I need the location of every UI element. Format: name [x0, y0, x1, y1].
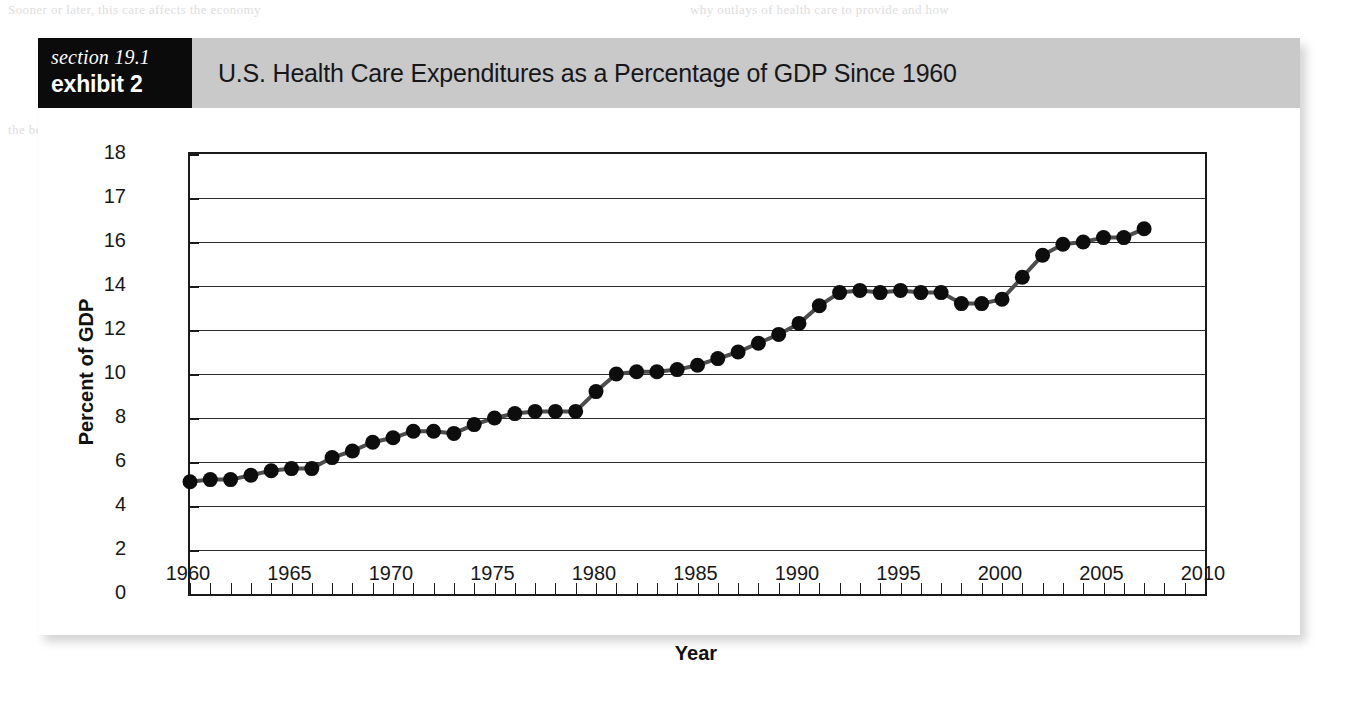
data-point — [446, 426, 461, 441]
data-point — [792, 316, 807, 331]
section-label: section 19.1 — [51, 45, 192, 70]
exhibit-label-block: section 19.1 exhibit 2 — [38, 38, 192, 108]
y-tick-label: 6 — [66, 449, 126, 472]
x-tick-label: 1990 — [775, 562, 820, 585]
data-point — [1035, 248, 1050, 263]
data-point — [649, 364, 664, 379]
data-point — [365, 435, 380, 450]
y-tick-label: 17 — [66, 185, 126, 208]
x-tick-label: 1960 — [166, 562, 211, 585]
x-tick-label: 1970 — [369, 562, 414, 585]
data-point — [589, 384, 604, 399]
data-point — [1096, 230, 1111, 245]
y-tick-label: 14 — [66, 273, 126, 296]
x-tick-label: 1985 — [673, 562, 718, 585]
data-point — [852, 283, 867, 298]
series-markers — [183, 221, 1152, 489]
data-point — [264, 463, 279, 478]
data-point — [203, 472, 218, 487]
data-point — [487, 411, 502, 426]
series-line — [190, 229, 1144, 482]
x-tick-label: 1965 — [267, 562, 312, 585]
data-point — [467, 417, 482, 432]
data-point — [934, 285, 949, 300]
data-point — [304, 461, 319, 476]
y-tick-label: 2 — [66, 537, 126, 560]
y-tick-label: 4 — [66, 493, 126, 516]
data-point — [731, 345, 746, 360]
data-point — [629, 364, 644, 379]
data-point — [751, 336, 766, 351]
x-tick-label: 2005 — [1079, 562, 1124, 585]
data-point — [284, 461, 299, 476]
data-point — [528, 404, 543, 419]
y-tick-label: 0 — [66, 581, 126, 604]
y-tick-label: 16 — [66, 229, 126, 252]
x-tick-label: 1975 — [470, 562, 515, 585]
data-point — [507, 406, 522, 421]
data-point — [1015, 270, 1030, 285]
data-point — [1055, 237, 1070, 252]
data-point — [548, 404, 563, 419]
y-tick-mark — [190, 594, 199, 596]
data-point — [812, 298, 827, 313]
data-point — [670, 362, 685, 377]
data-point — [325, 450, 340, 465]
y-tick-label: 8 — [66, 405, 126, 428]
y-tick-label: 12 — [66, 317, 126, 340]
data-point — [223, 472, 238, 487]
x-tick-label: 1980 — [572, 562, 617, 585]
data-point — [690, 358, 705, 373]
data-point — [609, 367, 624, 382]
data-point — [873, 285, 888, 300]
x-tick-label: 2000 — [978, 562, 1023, 585]
data-point — [1137, 221, 1152, 236]
data-point — [710, 351, 725, 366]
data-point — [832, 285, 847, 300]
figure-title: U.S. Health Care Expenditures as a Perce… — [218, 38, 957, 108]
bleed-text-line: why outlays of health care to provide an… — [690, 2, 949, 18]
data-point — [568, 404, 583, 419]
data-point — [771, 327, 786, 342]
bleed-text-line: Sooner or later, this care affects the e… — [8, 2, 261, 18]
x-tick-label: 1995 — [876, 562, 921, 585]
plot-area — [188, 152, 1207, 596]
data-point — [183, 474, 198, 489]
data-point — [954, 296, 969, 311]
data-series-layer — [190, 154, 1205, 594]
y-tick-label: 18 — [66, 141, 126, 164]
exhibit-label: exhibit 2 — [51, 70, 192, 98]
data-point — [913, 285, 928, 300]
data-point — [995, 292, 1010, 307]
data-point — [426, 424, 441, 439]
data-point — [386, 430, 401, 445]
x-axis-title: Year — [675, 642, 717, 665]
data-point — [974, 296, 989, 311]
x-tick-label: 2010 — [1181, 562, 1226, 585]
data-point — [406, 424, 421, 439]
data-point — [345, 444, 360, 459]
data-point — [1116, 230, 1131, 245]
data-point — [893, 283, 908, 298]
data-point — [1076, 235, 1091, 250]
y-tick-label: 10 — [66, 361, 126, 384]
data-point — [243, 468, 258, 483]
exhibit-figure: section 19.1 exhibit 2 U.S. Health Care … — [38, 38, 1300, 635]
chart-body: Percent of GDP Year 02468101214161718 19… — [38, 108, 1300, 635]
